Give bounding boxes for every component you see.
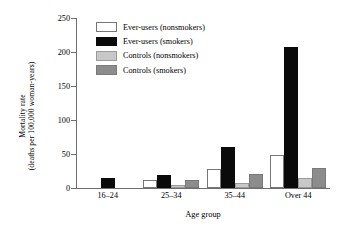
x-axis-line <box>76 188 330 189</box>
legend-item: Ever-users (nonsmokers) <box>96 22 205 32</box>
bar <box>101 178 115 188</box>
y-axis-title-line-1: Mortality rate <box>18 62 27 171</box>
bar <box>207 169 221 188</box>
y-axis-title-line-2: (deaths per 100,000 woman-years) <box>27 62 36 171</box>
y-axis-tick-label: 50 <box>62 150 70 159</box>
legend-label: Ever-users (nonsmokers) <box>123 23 205 32</box>
bar <box>157 175 171 188</box>
bar <box>235 183 249 188</box>
x-axis-category-label: 16–24 <box>76 191 140 203</box>
bar <box>270 155 284 188</box>
y-axis-tick <box>71 188 76 189</box>
y-axis-tick-label: 0 <box>66 184 70 193</box>
y-axis-title: Mortality rate (deaths per 100,000 woman… <box>14 46 40 186</box>
legend-item: Controls (smokers) <box>96 65 205 75</box>
x-axis-category-label: 25–34 <box>140 191 204 203</box>
legend-item: Ever-users (smokers) <box>96 36 205 46</box>
bar <box>143 180 157 188</box>
bar <box>185 180 199 188</box>
y-axis-tick-label: 100 <box>58 116 70 125</box>
bar-chart: Mortality rate (deaths per 100,000 woman… <box>0 0 346 236</box>
y-axis-tick-label: 150 <box>58 82 70 91</box>
y-axis-tick-label: 200 <box>58 48 70 57</box>
y-axis-tick-label: 250 <box>58 14 70 23</box>
legend-item: Controls (nonsmokers) <box>96 51 205 61</box>
bar <box>249 174 263 188</box>
legend-swatch <box>96 22 117 32</box>
legend-swatch <box>96 65 117 75</box>
legend: Ever-users (nonsmokers)Ever-users (smoke… <box>96 22 205 75</box>
bar <box>312 168 326 188</box>
bar <box>171 185 185 188</box>
bar-group <box>267 18 331 188</box>
bar <box>284 47 298 188</box>
x-axis-category-label: Over 44 <box>267 191 331 203</box>
legend-swatch <box>96 37 117 47</box>
x-axis-category-label: 35–44 <box>203 191 267 203</box>
legend-swatch <box>96 51 117 61</box>
x-axis-category-labels: 16–2425–3435–44Over 44 <box>76 191 330 203</box>
legend-label: Ever-users (smokers) <box>123 37 193 46</box>
bar-group <box>203 18 267 188</box>
legend-label: Controls (smokers) <box>123 66 186 75</box>
bar <box>221 147 235 188</box>
y-axis-tick-labels: 050100150200250 <box>44 18 70 188</box>
x-axis-title: Age group <box>76 210 330 219</box>
bar <box>298 178 312 188</box>
legend-label: Controls (nonsmokers) <box>123 51 198 60</box>
